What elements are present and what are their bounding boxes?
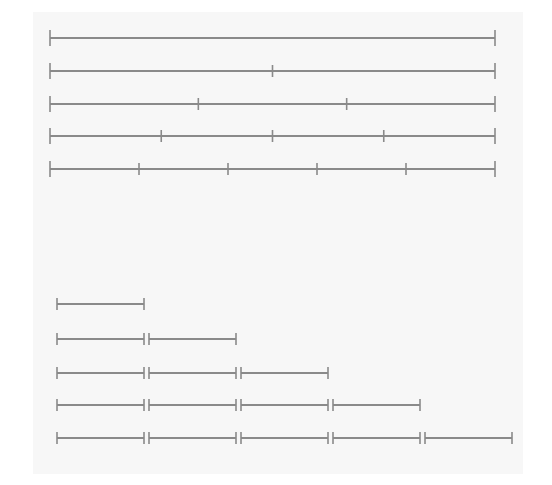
divided-lines-diagram [0,0,552,485]
whole-line-partitions [50,30,495,177]
unit-segment-iterations [57,298,512,444]
